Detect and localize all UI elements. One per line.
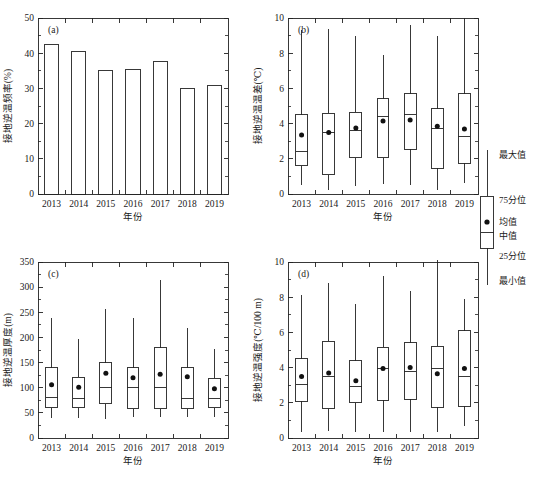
mean-dot bbox=[435, 371, 440, 376]
bar-2015 bbox=[99, 71, 113, 194]
panel-c-xtick-label: 2019 bbox=[205, 443, 224, 453]
panel-b-panel-id: (b) bbox=[298, 25, 309, 36]
mean-dot bbox=[462, 126, 467, 131]
box-2015 bbox=[350, 304, 362, 432]
box-2019 bbox=[458, 299, 470, 426]
panel-d-xtick-label: 2015 bbox=[346, 443, 365, 453]
mean-dot bbox=[299, 133, 304, 138]
panel-c: 0501001502002503003502013201420152016201… bbox=[2, 257, 228, 466]
legend-label-p75: 75分位 bbox=[499, 194, 526, 205]
mean-dot bbox=[299, 374, 304, 379]
mean-dot bbox=[49, 382, 54, 387]
box-rect bbox=[181, 368, 193, 409]
panel-d-xtick-label: 2016 bbox=[374, 443, 393, 453]
box-2014 bbox=[323, 29, 335, 191]
box-2016 bbox=[377, 55, 389, 184]
box-rect bbox=[127, 368, 139, 409]
panel-b-ylabel: 接地逆温温差(℃) bbox=[252, 68, 264, 145]
mean-dot bbox=[131, 375, 136, 380]
box-rect bbox=[46, 368, 58, 408]
panel-b-xtick-label: 2018 bbox=[428, 199, 447, 209]
panel-d-ytick-label: 4 bbox=[279, 363, 284, 373]
panel-a-xtick-label: 2014 bbox=[69, 199, 88, 209]
box-2016 bbox=[127, 318, 139, 417]
mean-dot bbox=[353, 378, 358, 383]
panel-a-ylabel: 接地逆温频率(%) bbox=[2, 69, 14, 143]
panel-a-ytick-label: 50 bbox=[25, 13, 35, 23]
panel-d-ytick-label: 6 bbox=[279, 328, 284, 338]
panel-b-ytick-label: 10 bbox=[275, 13, 285, 23]
mean-dot bbox=[326, 370, 331, 375]
bar-2019 bbox=[207, 86, 221, 194]
panel-a-ytick-label: 40 bbox=[25, 49, 35, 59]
panel-c-ylabel: 接地逆温厚度(m) bbox=[2, 313, 14, 387]
box-2015 bbox=[100, 309, 112, 419]
box-2017 bbox=[404, 291, 416, 432]
panel-c-ytick-label: 200 bbox=[20, 333, 35, 343]
box-rect bbox=[377, 347, 389, 400]
legend-label-mean: 均值 bbox=[499, 216, 517, 227]
mean-dot bbox=[185, 374, 190, 379]
panel-c-panel-id: (c) bbox=[48, 269, 59, 280]
panel-c-xtick-label: 2014 bbox=[69, 443, 88, 453]
panel-a-xlabel: 年份 bbox=[123, 211, 143, 222]
panel-d-xtick-label: 2018 bbox=[428, 443, 447, 453]
panel-c-ytick-label: 150 bbox=[20, 358, 35, 368]
panel-b-ytick-label: 4 bbox=[279, 119, 284, 129]
legend-label-p25: 25分位 bbox=[499, 250, 526, 261]
panel-b-xtick-label: 2014 bbox=[319, 199, 338, 209]
mean-dot bbox=[408, 118, 413, 123]
panel-c-xtick-label: 2016 bbox=[124, 443, 143, 453]
panel-d-ytick-label: 8 bbox=[279, 293, 284, 303]
panel-b-xlabel: 年份 bbox=[373, 211, 393, 222]
legend-label-max: 最大值 bbox=[499, 149, 526, 160]
mean-dot bbox=[462, 366, 467, 371]
panel-a: 010203040502013201420152016201720182019年… bbox=[2, 13, 228, 222]
mean-dot bbox=[381, 118, 386, 123]
panel-c-ytick-label: 0 bbox=[29, 433, 34, 443]
panel-d-panel-id: (d) bbox=[298, 269, 309, 280]
panel-d-xtick-label: 2013 bbox=[292, 443, 311, 453]
panel-d-ylabel: 接地逆温强度(℃/100 m) bbox=[252, 298, 264, 402]
mean-dot bbox=[408, 365, 413, 370]
panel-a-xtick-label: 2017 bbox=[151, 199, 170, 209]
box-2014 bbox=[73, 339, 85, 418]
legend-label-median: 中值 bbox=[499, 230, 517, 241]
box-2013 bbox=[296, 295, 308, 432]
four-panel-figure: 010203040502013201420152016201720182019年… bbox=[0, 0, 533, 489]
box-2016 bbox=[377, 276, 389, 432]
bar-2017 bbox=[153, 61, 167, 194]
box-2014 bbox=[323, 283, 335, 431]
box-2019 bbox=[208, 349, 220, 417]
panel-b-xtick-label: 2016 bbox=[374, 199, 393, 209]
box-rect bbox=[350, 112, 362, 158]
panel-a-xtick-label: 2018 bbox=[178, 199, 197, 209]
box-rect bbox=[431, 346, 443, 407]
mean-dot bbox=[158, 372, 163, 377]
panel-d-ytick-label: 2 bbox=[279, 398, 284, 408]
mean-dot bbox=[326, 130, 331, 135]
bar-2018 bbox=[180, 88, 194, 194]
panel-c-xtick-label: 2013 bbox=[42, 443, 61, 453]
panel-a-xtick-label: 2019 bbox=[205, 199, 224, 209]
box-rect bbox=[296, 359, 308, 401]
panel-a-ytick-label: 10 bbox=[25, 154, 35, 164]
legend-mean-dot bbox=[484, 219, 489, 224]
panel-c-ytick-label: 100 bbox=[20, 383, 35, 393]
panel-b-xtick-label: 2019 bbox=[455, 199, 474, 209]
panel-c-xtick-label: 2017 bbox=[151, 443, 170, 453]
panel-c-xlabel: 年份 bbox=[123, 455, 143, 466]
box-rect bbox=[154, 348, 166, 409]
panel-c-xtick-label: 2015 bbox=[96, 443, 115, 453]
panel-c-ytick-label: 350 bbox=[20, 257, 35, 267]
bar-2013 bbox=[45, 44, 59, 194]
boxplot-legend: 最大值75分位均值中值25分位最小值 bbox=[481, 149, 527, 286]
panel-b: 02468102013201420152016201720182019年份接地逆… bbox=[252, 13, 478, 222]
panel-b-xtick-label: 2015 bbox=[346, 199, 365, 209]
panel-b-ytick-label: 0 bbox=[279, 189, 284, 199]
mean-dot bbox=[435, 124, 440, 129]
panel-a-ytick-label: 30 bbox=[25, 84, 35, 94]
box-rect bbox=[208, 378, 220, 408]
panel-d-xtick-label: 2017 bbox=[401, 443, 420, 453]
panel-b-xtick-label: 2013 bbox=[292, 199, 311, 209]
